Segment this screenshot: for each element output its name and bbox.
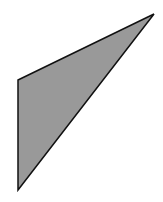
triangle-shape xyxy=(18,14,154,190)
diagram-canvas xyxy=(0,0,163,202)
